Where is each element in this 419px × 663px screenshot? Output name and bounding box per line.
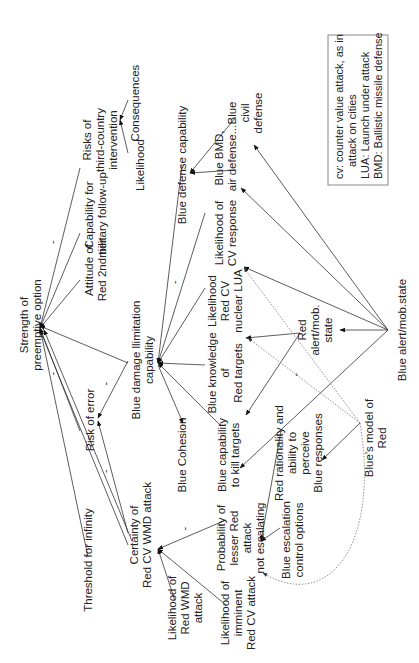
node-label-line: imminent [232, 589, 244, 636]
node-label-line: Red [296, 319, 308, 340]
node-blue-alert: Blue alert/mob.state [396, 279, 408, 381]
node-label-line: Likelihood of [213, 200, 225, 265]
node-blue-model: Blue's model ofRed [363, 398, 388, 477]
node-label-line: air defense... [226, 125, 238, 191]
node-consequences: Consequences [129, 64, 141, 141]
node-likelihood-imminent: Likelihood ofimminentRed CV attack [219, 576, 257, 650]
node-likelihood-red-wmd: Likelihood ofRed WMDattack [166, 575, 204, 640]
edge-blue_knowledge-to-blue_damage [158, 363, 205, 365]
node-blue-cohesion: Blue Cohesion [176, 418, 188, 493]
edge-blue_model-to-likelihood_cv_resp [244, 268, 360, 423]
node-label-line: attack [241, 522, 253, 553]
influence-diagram: ------- Strength ofpreemptive optionAtti… [0, 0, 419, 663]
node-blue-escalation: Blue escalationcontrol options [280, 501, 305, 579]
node-label-line: Red [376, 427, 388, 448]
node-label-line: Red targets [232, 343, 244, 403]
node-label-line: third-country [94, 108, 106, 172]
node-label-line: Likelihood of [219, 580, 231, 645]
node-label-line: of [219, 367, 231, 377]
legend-line: attack on cities [346, 94, 358, 167]
node-label-line: military follow-up [96, 172, 108, 258]
node-label-line: not escalating [254, 503, 266, 574]
node-label-line: lesser Red [228, 511, 240, 566]
node-label-line: Likelihood [206, 275, 218, 327]
node-threshold: Threshold for infinity [82, 508, 94, 612]
negative-sign: - [46, 372, 58, 376]
node-label-line: Capability for [83, 181, 95, 248]
node-label-line: Red CV attack [245, 576, 257, 650]
edge-blue_damage-to-risk_error [98, 361, 128, 418]
node-label-line: to kill targets [229, 422, 241, 487]
node-label-line: alert/mob. [309, 304, 321, 355]
node-label-line: Blue knowledge [206, 332, 218, 413]
node-label-line: Red rationality and [273, 405, 285, 501]
node-label-line: perceive [299, 431, 311, 474]
node-label-line: defense [252, 93, 264, 134]
legend-line: cv: counter value attack, as in [333, 34, 345, 179]
node-label-line: Blue capability [216, 418, 228, 492]
node-label-line: Blue [226, 101, 238, 124]
edge-blue_model-to-likelihood_lua [248, 338, 360, 423]
node-label-line: Red WMD [179, 581, 191, 634]
node-label-line: ability to [286, 432, 298, 474]
node-likelihood-top: Likelihood [134, 139, 146, 191]
negative-sign: - [46, 240, 58, 244]
node-label-line: intervention [107, 110, 119, 169]
negative-sign: - [178, 527, 190, 531]
node-label-line: Consequences [129, 64, 141, 141]
node-label-line: Likelihood [134, 139, 146, 191]
edge-certainty-to-risk_error [98, 421, 128, 533]
node-certainty: Certainty ofRed CV WMD attack [128, 482, 153, 588]
node-likelihood-lua: LikelihoodRed CVnuclear LUA [206, 269, 244, 333]
node-label-line: Blue alert/mob.state [396, 279, 408, 381]
node-label-line: Blue BMD, [213, 131, 225, 186]
node-label-line: Attitude of [83, 243, 95, 296]
negative-sign: - [99, 469, 111, 473]
negative-sign: - [168, 280, 180, 284]
legend-line: LUA: Launch under attack [359, 51, 371, 179]
node-blue-kill: Blue capabilityto kill targets [216, 418, 241, 492]
node-label-line: capability [143, 336, 155, 384]
node-label-line: Probability of [215, 504, 227, 571]
node-label-line: Blue responses [312, 413, 324, 493]
edge-likelihood_lua-to-blue_damage [158, 288, 205, 363]
node-label-line: Risks of [81, 119, 93, 161]
legend: cv: counter value attack, as in attack o… [328, 32, 388, 185]
node-label-line: nuclear LUA [232, 269, 244, 333]
node-label-line: Blue escalation [280, 501, 292, 579]
node-blue-damage: Blue damage llimitationcapability [130, 301, 155, 420]
node-red-alert: Redalert/mob.state [296, 304, 334, 355]
node-risks-third: Risks ofthird-countryintervention [81, 108, 119, 172]
node-label-line: Blue damage llimitation [130, 301, 142, 420]
node-blue-defense: Blue defense capability [176, 106, 188, 225]
edge-consequences-to-risks_third [120, 100, 128, 120]
node-label-line: state [322, 318, 334, 343]
edge-blue_model-to-red_rationality [322, 423, 360, 460]
node-prob-lesser: Probability oflesser Redattacknot escala… [215, 503, 266, 574]
edge-blue_damage-to-blue_cohesion [158, 365, 183, 423]
diagram-stage: ------- Strength ofpreemptive optionAtti… [0, 0, 419, 663]
node-likelihood-cv-resp: Likelihood ofCV response [213, 200, 238, 266]
node-label-line: civil [239, 103, 251, 122]
edge-red_alert-to-likelihood_lua [246, 333, 300, 338]
node-label-line: attack [192, 592, 204, 623]
node-label-line: preemptive option [31, 279, 43, 370]
legend-line: BMD: Ballistic missile defense [372, 32, 384, 179]
negative-sign: - [99, 382, 111, 386]
edge-likelihood_cv_resp-to-blue_damage [158, 213, 205, 363]
node-label-line: Strength of [18, 296, 30, 353]
node-red-rationality: Red rationality andability toperceiveBlu… [273, 405, 324, 501]
node-blue-knowledge: Blue knowledgeofRed targets [206, 332, 244, 413]
node-label-line: CV response [226, 200, 238, 266]
edge-blue_damage-to-strength [40, 326, 128, 363]
node-label-line: control options [293, 502, 305, 577]
node-capability-followup: Capability formilitary follow-up [83, 172, 108, 258]
node-label-line: Red CV WMD attack [141, 482, 153, 588]
edge-likelihood_top-to-risks_third [120, 120, 128, 153]
node-label-line: Likelihood of [166, 575, 178, 640]
node-label-line: Red CV [219, 281, 231, 322]
node-label-line: Blue's model of [363, 398, 375, 477]
node-label-line: Threshold for infinity [82, 508, 94, 612]
node-label-line: Blue defense capability [176, 106, 188, 225]
node-label-line: Risk of error [84, 389, 96, 452]
